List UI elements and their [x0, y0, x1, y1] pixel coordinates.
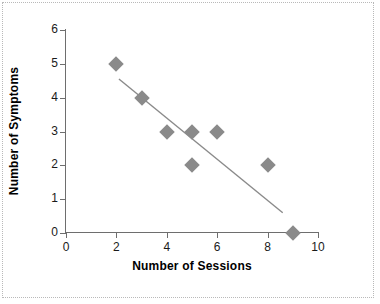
x-tick [66, 233, 67, 238]
x-axis-line [65, 232, 319, 233]
y-tick-label: 3 [51, 125, 58, 137]
x-tick-label: 2 [113, 241, 120, 253]
data-point [184, 124, 200, 140]
data-point [134, 90, 150, 106]
y-tick-label: 6 [51, 23, 58, 35]
data-point [260, 158, 276, 174]
x-tick-label: 0 [63, 241, 70, 253]
x-tick [116, 233, 117, 238]
x-tick-label: 10 [311, 241, 324, 253]
y-tick [60, 98, 65, 99]
y-tick [60, 132, 65, 133]
y-tick-label: 2 [51, 158, 58, 170]
y-axis-title: Number of Symptoms [7, 67, 21, 195]
data-point [109, 56, 125, 72]
x-axis-title: Number of Sessions [132, 259, 252, 273]
y-tick-label: 4 [51, 91, 58, 103]
x-tick [217, 233, 218, 238]
y-tick [60, 233, 65, 234]
x-tick-label: 4 [163, 241, 170, 253]
x-tick [268, 233, 269, 238]
x-tick-label: 8 [264, 241, 271, 253]
y-tick [60, 64, 65, 65]
y-tick-label: 1 [51, 192, 58, 204]
y-tick-label: 0 [51, 226, 58, 238]
y-axis-line [65, 29, 66, 234]
x-tick [167, 233, 168, 238]
data-point [285, 225, 301, 241]
y-tick-label: 5 [51, 57, 58, 69]
y-tick [60, 165, 65, 166]
x-tick [318, 233, 319, 238]
scatter-plot: 0123456 0246810 Number of Sessions Numbe… [0, 0, 380, 304]
data-point [184, 158, 200, 174]
data-point [159, 124, 175, 140]
data-point [209, 124, 225, 140]
x-tick-label: 6 [214, 241, 221, 253]
y-tick [60, 30, 65, 31]
y-tick [60, 199, 65, 200]
